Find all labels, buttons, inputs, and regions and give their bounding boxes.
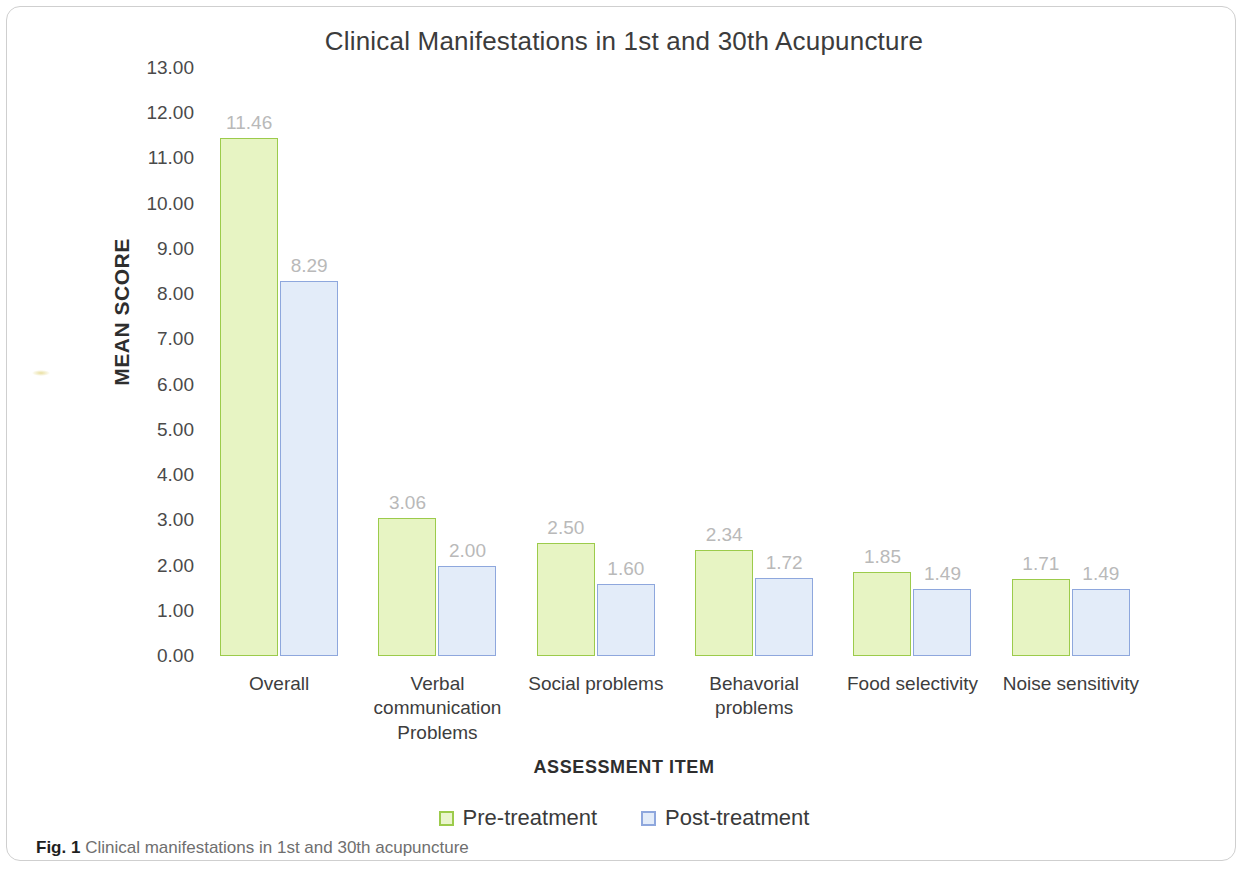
bar-group: 1.851.49 xyxy=(833,68,991,656)
bar-group: 2.341.72 xyxy=(675,68,833,656)
bar-post-treatment[interactable] xyxy=(438,566,496,656)
x-axis-category-label: Behavorial problems xyxy=(669,672,839,721)
legend-label: Post-treatment xyxy=(665,805,809,831)
chart-title: Clinical Manifestations in 1st and 30th … xyxy=(0,26,1248,57)
y-axis-tick: 2.00 xyxy=(157,555,194,577)
bar-value-label: 2.50 xyxy=(525,517,607,539)
bar-value-label: 2.34 xyxy=(683,524,765,546)
y-axis-tick: 4.00 xyxy=(157,464,194,486)
y-axis-tick: 3.00 xyxy=(157,509,194,531)
legend-item-pre-treatment[interactable]: Pre-treatment xyxy=(439,805,598,831)
y-axis-tick: 0.00 xyxy=(157,645,194,667)
y-axis-tick: 13.00 xyxy=(146,57,194,79)
x-axis-title: ASSESSMENT ITEM xyxy=(0,757,1248,778)
bar-value-label: 1.60 xyxy=(585,558,667,580)
bar-post-treatment[interactable] xyxy=(597,584,655,656)
bar-value-label: 1.72 xyxy=(743,552,825,574)
legend-swatch-icon xyxy=(641,811,656,826)
bar-group: 1.711.49 xyxy=(992,68,1150,656)
legend-swatch-icon xyxy=(439,811,454,826)
bar-post-treatment[interactable] xyxy=(1072,589,1130,656)
bar-pre-treatment[interactable] xyxy=(853,572,911,656)
bar-value-label: 1.49 xyxy=(1060,563,1142,585)
y-axis-tick: 9.00 xyxy=(157,238,194,260)
y-axis-tick: 12.00 xyxy=(146,102,194,124)
bar-value-label: 3.06 xyxy=(366,492,448,514)
y-axis-tick: 1.00 xyxy=(157,600,194,622)
bar-group: 2.501.60 xyxy=(517,68,675,656)
bar-group: 11.468.29 xyxy=(200,68,358,656)
figure-caption-text: Clinical manifestations in 1st and 30th … xyxy=(85,838,469,857)
y-axis-tick: 10.00 xyxy=(146,193,194,215)
y-axis-tick: 11.00 xyxy=(148,147,194,169)
x-axis-category-label: Noise sensitivity xyxy=(986,672,1156,696)
plot-area: 11.468.293.062.002.501.602.341.721.851.4… xyxy=(200,68,1150,656)
legend-label: Pre-treatment xyxy=(463,805,598,831)
chart-legend: Pre-treatmentPost-treatment xyxy=(0,805,1248,831)
bar-value-label: 1.49 xyxy=(901,563,983,585)
scan-artifact xyxy=(32,370,50,376)
bar-value-label: 8.29 xyxy=(268,255,350,277)
bar-pre-treatment[interactable] xyxy=(220,138,278,656)
y-axis-tick: 7.00 xyxy=(157,328,194,350)
bar-post-treatment[interactable] xyxy=(755,578,813,656)
y-axis: 13.0012.0011.0010.009.008.007.006.005.00… xyxy=(138,68,194,656)
y-axis-tick: 8.00 xyxy=(157,283,194,305)
y-axis-tick: 5.00 xyxy=(157,419,194,441)
bar-value-label: 11.46 xyxy=(208,112,290,134)
x-axis-category-label: Overall xyxy=(194,672,364,696)
bar-pre-treatment[interactable] xyxy=(1012,579,1070,656)
y-axis-title: MEAN SCORE xyxy=(110,182,134,442)
x-axis-category-label: Verbal communication Problems xyxy=(352,672,522,745)
figure-caption-label: Fig. 1 xyxy=(36,838,80,857)
bar-group: 3.062.00 xyxy=(358,68,516,656)
bar-post-treatment[interactable] xyxy=(280,281,338,656)
bar-value-label: 2.00 xyxy=(426,540,508,562)
x-axis-category-label: Social problems xyxy=(511,672,681,696)
bar-pre-treatment[interactable] xyxy=(378,518,436,656)
legend-item-post-treatment[interactable]: Post-treatment xyxy=(641,805,809,831)
y-axis-tick: 6.00 xyxy=(157,374,194,396)
bar-post-treatment[interactable] xyxy=(913,589,971,656)
figure-caption: Fig. 1 Clinical manifestations in 1st an… xyxy=(36,838,469,858)
x-axis-category-label: Food selectivity xyxy=(827,672,997,696)
